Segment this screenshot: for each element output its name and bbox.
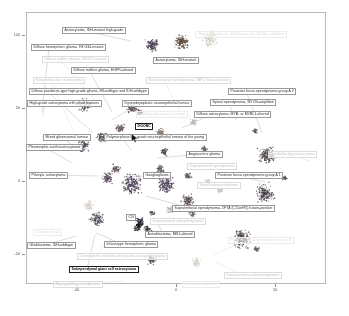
y-axis-tick-mark: [22, 254, 25, 255]
y-axis-tick-label: -50: [0, 252, 20, 256]
cluster-label-mixed-gnt[interactable]: Mixed glioneuronal tumour: [43, 134, 91, 141]
cluster-label-st-epn[interactable]: Supratentorial ependymoma: [187, 163, 237, 170]
cluster-label-diffuse-astro-myb[interactable]: Diffuse astrocytoma, MYB- or MYBL1-alter…: [194, 111, 271, 118]
cluster-label-segca[interactable]: Subependymal giant cell astrocytoma: [69, 266, 139, 273]
cluster-label-spinal-subepn[interactable]: Spinal subependymoma: [197, 182, 241, 189]
cluster-label-angiocentric[interactable]: Angiocentric glioma: [186, 151, 223, 158]
y-axis-tick-mark: [22, 108, 25, 109]
cluster-label-spinal-epn[interactable]: Spinal ependymoma: [182, 281, 220, 288]
cluster-label-pf-epn-b[interactable]: Posterior fossa ependymoma group B: [228, 237, 294, 244]
cluster-label-oligodendroglioma[interactable]: Oligodendroglioma, IDH-mutant and 1p/19q…: [195, 31, 287, 38]
cluster-label-dmg-k27[interactable]: Diffuse midline glioma, H3 K27-altered: [42, 56, 109, 63]
mouse-pointer-icon: [131, 133, 138, 143]
cluster-label-choroid[interactable]: Choroid plexus: [33, 229, 62, 236]
scatter-cluster: [180, 247, 212, 279]
cluster-label-astroblastoma[interactable]: Astroblastoma, MN1-altered: [145, 231, 195, 238]
y-axis-tick-mark: [22, 181, 25, 182]
cluster-label-dphgg[interactable]: Diffuse paediatric-type high-grade gliom…: [29, 88, 149, 95]
cluster-label-pgnt[interactable]: Papillary glioneuronal tumour: [136, 111, 188, 118]
cluster-label-plnty[interactable]: Polymorphous low-grade neuroepithelial t…: [104, 134, 207, 141]
cluster-label-ganglioglioma[interactable]: Ganglioglioma: [143, 172, 171, 179]
cluster-label-spinal-epn-mycn[interactable]: Spinal ependymoma, MYCN-amplified: [210, 99, 276, 106]
cluster-label-hgap[interactable]: High-grade astrocytoma with piloid featu…: [27, 100, 102, 107]
cluster-label-pilocytic[interactable]: Pilocytic astrocytoma: [29, 172, 68, 179]
cluster-label-astro-idh-mut[interactable]: Astrocytoma, IDH-mutant: [153, 57, 199, 64]
cluster-label-myxopapillary[interactable]: Myxopapillary ependymoma: [53, 281, 103, 288]
x-axis-tick-label: -50: [57, 288, 97, 292]
cluster-label-dhg-g34[interactable]: Diffuse hemispheric glioma, H3 G34-mutan…: [31, 44, 106, 51]
scatter-cluster: [73, 195, 121, 243]
cluster-label-pxa[interactable]: Pleomorphic xanthoastrocytoma: [26, 144, 83, 151]
cluster-label-pfa2[interactable]: Posterior fossa ependymoma group A 2: [228, 88, 296, 95]
y-axis-tick-label: 0: [0, 179, 20, 183]
cluster-label-astro-idh-mut-hg[interactable]: Astrocytoma, IDH-mutant high-grade: [62, 27, 126, 34]
scatter-cluster: [136, 245, 168, 277]
cluster-label-pfa1[interactable]: Posterior fossa ependymoma group A 1: [215, 172, 283, 179]
cluster-label-st-epn-yap1[interactable]: Supratentorial ependymoma, YAP1 fusion-p…: [146, 77, 231, 84]
x-axis-tick-label: 0: [156, 288, 196, 292]
cluster-label-dgonc[interactable]: DGONC: [135, 123, 153, 130]
scatter-plot-figure: 100500-50-50050 Astrocytoma, IDH-mutant …: [0, 0, 349, 316]
cluster-label-evn[interactable]: Extraventricular neurocytoma: [33, 77, 85, 84]
x-axis-tick-label: 50: [255, 288, 295, 292]
cluster-label-st-subepn[interactable]: Supratentorial subependymoma: [150, 218, 206, 225]
cluster-label-cerebellar-lipo[interactable]: Cerebellar liponeurocytoma: [268, 151, 317, 158]
cluster-label-infant-hemi[interactable]: Infant-type hemispheric glioma: [104, 241, 158, 248]
cluster-label-gbm[interactable]: Glioblastoma, IDH-wildtype: [27, 242, 76, 249]
y-axis-tick-mark: [22, 35, 25, 36]
y-axis-tick-label: 100: [0, 33, 20, 37]
cluster-label-dnet[interactable]: Dysembryoplastic neuroepithelial tumour: [122, 100, 192, 107]
x-axis-tick-mark: [275, 284, 276, 287]
y-axis-tick-label: 50: [0, 106, 20, 110]
cluster-label-st-epn-zfta[interactable]: Supratentorial ependymoma, ZFTA (C11orf9…: [172, 205, 275, 212]
cluster-label-cn[interactable]: CN: [126, 214, 136, 221]
cluster-label-diag[interactable]: Desmoplastic infantile astrocytoma and g…: [77, 253, 168, 260]
cluster-label-dmg-egfr[interactable]: Diffuse midline glioma, EGFR-altered: [71, 67, 136, 74]
x-axis-tick-mark: [176, 284, 177, 287]
cluster-label-pf-subepn[interactable]: Posterior fossa subependymoma: [224, 272, 282, 279]
